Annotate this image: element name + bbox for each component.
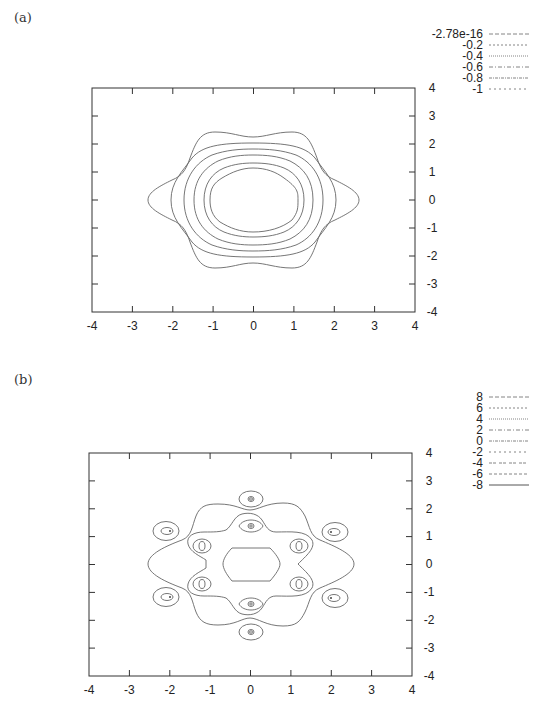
y-tick-label: 3	[426, 474, 433, 488]
plot-b-island-dots	[169, 530, 332, 599]
plot-b-x-tick-labels: -4 -3 -2 -1 0 1 2 3 4	[84, 683, 416, 697]
y-tick-label: -3	[424, 641, 435, 655]
x-tick-label: 2	[331, 319, 338, 333]
y-tick-label: 1	[426, 529, 433, 543]
x-tick-label: 3	[371, 319, 378, 333]
x-tick-label: -3	[124, 683, 135, 697]
plot-b-ticks	[89, 453, 412, 676]
x-tick-label: 3	[368, 683, 375, 697]
plot-a-x-tick-labels: -4 -3 -2 -1 0 1 2 3 4	[87, 319, 419, 333]
y-tick-label: 4	[426, 446, 433, 460]
y-tick-label: -2	[427, 249, 438, 263]
y-tick-label: 4	[429, 81, 436, 95]
y-tick-label: -2	[424, 613, 435, 627]
plot-b: -4 -3 -2 -1 0 1 2 3 4 -4 -3 -2 -1 0 1 2 …	[84, 446, 435, 697]
x-tick-label: 0	[247, 683, 254, 697]
y-tick-label: -4	[424, 669, 435, 683]
x-tick-label: -2	[164, 683, 175, 697]
plot-a-contours	[148, 132, 359, 268]
y-tick-label: -4	[427, 305, 438, 319]
x-tick-label: 1	[288, 683, 295, 697]
x-tick-label: 1	[291, 319, 298, 333]
y-tick-label: -1	[424, 585, 435, 599]
x-tick-label: -1	[205, 683, 216, 697]
plot-a: -4 -3 -2 -1 0 1 2 3 4 -4 -3 -2 -1 0 1 2 …	[87, 81, 438, 333]
island	[239, 491, 263, 507]
plot-b-contours	[148, 491, 354, 640]
x-tick-label: -3	[127, 319, 138, 333]
y-tick-label: 3	[429, 109, 436, 123]
plot-a-frame	[92, 88, 415, 312]
x-tick-label: -2	[167, 319, 178, 333]
x-tick-label: 4	[409, 683, 416, 697]
y-tick-label: -3	[427, 277, 438, 291]
x-tick-label: -4	[84, 683, 95, 697]
plot-a-ticks	[92, 88, 415, 312]
plot-b-frame	[89, 453, 412, 676]
plots-canvas: -4 -3 -2 -1 0 1 2 3 4 -4 -3 -2 -1 0 1 2 …	[0, 0, 547, 706]
y-tick-label: 2	[429, 137, 436, 151]
y-tick-label: 0	[426, 557, 433, 571]
x-tick-label: 0	[250, 319, 257, 333]
x-tick-label: 4	[412, 319, 419, 333]
x-tick-label: -1	[208, 319, 219, 333]
plot-b-y-tick-labels: -4 -3 -2 -1 0 1 2 3 4	[424, 446, 435, 683]
y-tick-label: -1	[427, 221, 438, 235]
plot-a-y-tick-labels: -4 -3 -2 -1 0 1 2 3 4	[427, 81, 438, 319]
y-tick-label: 2	[426, 502, 433, 516]
x-tick-label: -4	[87, 319, 98, 333]
x-tick-label: 2	[328, 683, 335, 697]
y-tick-label: 1	[429, 165, 436, 179]
y-tick-label: 0	[429, 193, 436, 207]
